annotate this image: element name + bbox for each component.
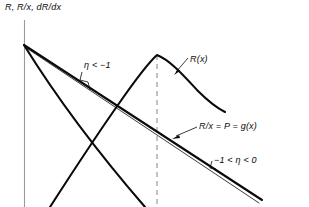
leader-average-product: [176, 127, 197, 136]
plot-canvas: [0, 0, 309, 207]
annotation-average-product: R/x = P = g(x): [199, 122, 257, 131]
y-axis-label: R, R/x, dR/dx: [5, 3, 61, 12]
annotation-r-of-x: R(x): [190, 55, 208, 64]
resource-curves-figure: R, R/x, dR/dx R(x) η < −1 R/x = P = g(x)…: [0, 0, 309, 207]
annotation-eta-between: −1 < η < 0: [214, 156, 257, 165]
annotation-eta-less-than-neg-one: η < −1: [84, 61, 111, 70]
